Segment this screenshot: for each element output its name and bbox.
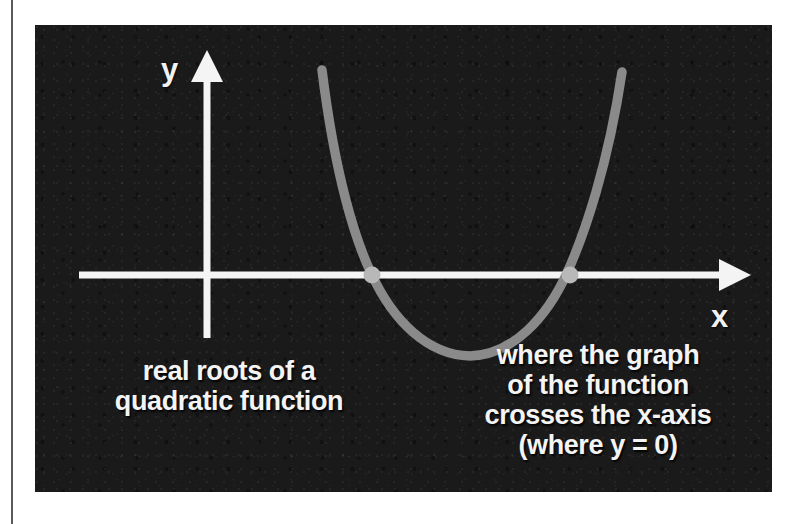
figure-panel: y x real roots of a quadratic function w… bbox=[35, 25, 772, 492]
right-root-marker bbox=[562, 267, 579, 284]
right-caption-line-2: of the function bbox=[433, 370, 763, 400]
y-axis-arrowhead bbox=[191, 50, 223, 82]
right-caption-line-1: where the graph bbox=[433, 340, 763, 370]
page-canvas: y x real roots of a quadratic function w… bbox=[0, 0, 800, 524]
left-caption-line-1: real roots of a bbox=[61, 356, 397, 386]
x-axis-label: x bbox=[711, 301, 728, 332]
y-axis-line bbox=[204, 61, 211, 338]
parabola-curve bbox=[322, 70, 622, 356]
right-caption-line-4: (where y = 0) bbox=[433, 430, 763, 460]
left-caption-line-2: quadratic function bbox=[61, 386, 397, 416]
left-caption: real roots of a quadratic function bbox=[61, 356, 397, 416]
right-caption-line-3: crosses the x-axis bbox=[433, 400, 763, 430]
x-axis-line bbox=[79, 272, 727, 279]
y-axis-label: y bbox=[161, 54, 178, 85]
x-axis-arrowhead bbox=[719, 259, 751, 291]
left-root-marker bbox=[364, 267, 381, 284]
page-margin-rule bbox=[11, 0, 13, 524]
right-caption: where the graph of the function crosses … bbox=[433, 340, 763, 460]
